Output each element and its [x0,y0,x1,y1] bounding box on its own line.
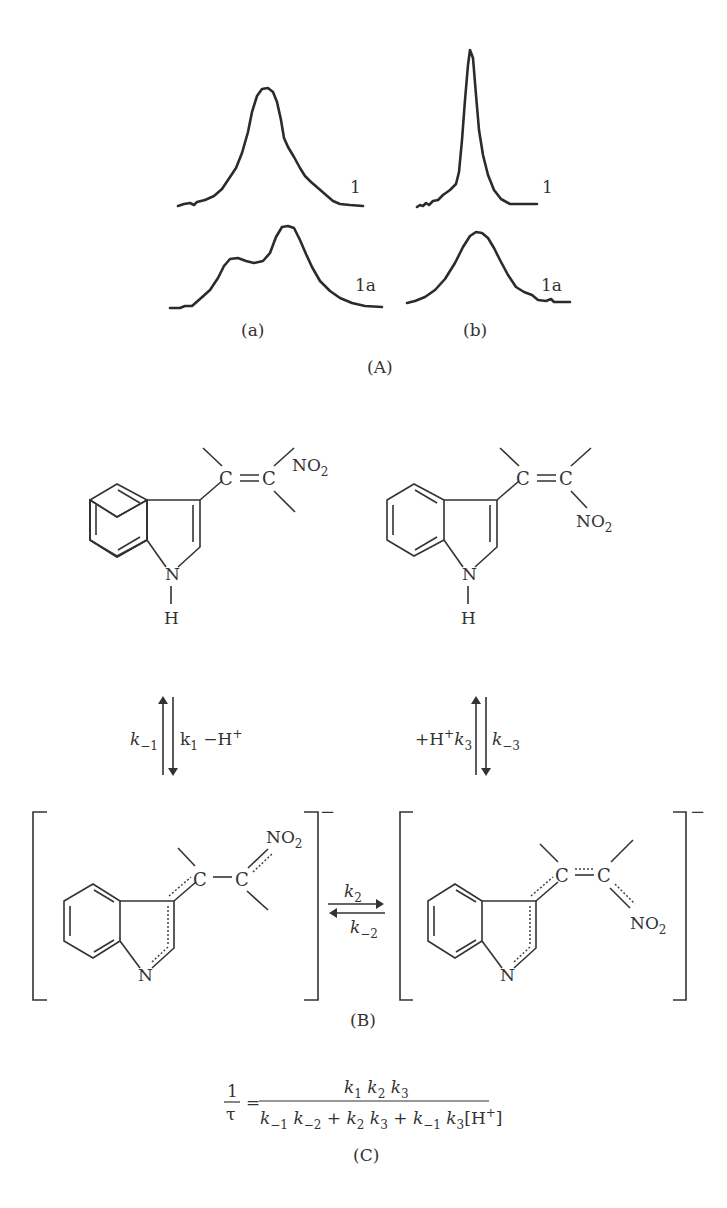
k-minus-3-label: k−3 [492,729,520,753]
bl-charge: − [320,801,335,822]
lhs-numerator: 1 [227,1081,238,1101]
molecule-top-left: N H C C NO2 [90,448,328,628]
tr-n-atom: N [462,564,477,584]
bracket-right-icon [673,812,686,1000]
bl-n-atom: N [138,965,153,985]
tl-no2: NO2 [292,455,328,479]
molecule-top-right: N H C C NO2 [387,448,612,628]
br-c-right: C [597,865,611,886]
tl-h-atom: H [164,608,179,628]
k1-minus-h-label: k1 −H+ [180,727,243,753]
panel-b-label: (B) [350,1010,376,1030]
spectrum-a-1a-label: 1a [355,275,376,295]
tr-h-atom: H [461,608,476,628]
bracket-left-icon [33,812,47,1000]
spectrum-a-1-curve [178,88,363,206]
br-n-atom: N [500,965,515,985]
anion-bottom-right: − N C C NO2 [400,801,705,1000]
tl-n-atom: N [165,564,180,584]
denominator-terms: k−1 k−2 + k2 k3 + k−1 k3[H+] [260,1106,502,1132]
br-c-left: C [555,865,569,886]
spectrum-group-b-label: (b) [463,320,487,340]
spectrum-b-1-curve [417,50,537,207]
panel-a-spectra: 1 1 1a 1a (a) (b) (A) [170,50,570,377]
rate-equation: 1 τ = k1 k2 k3 k−1 k−2 + k2 k3 + k−1 k3[… [224,1077,502,1165]
spectrum-b-1a-label: 1a [541,275,562,295]
br-charge: − [690,801,705,822]
tl-c-left: C [219,468,233,489]
spectrum-group-a-label: (a) [241,320,264,340]
figure-canvas: 1 1 1a 1a (a) (b) (A) N H C C NO2 [0,0,727,1208]
bl-c-left: C [193,869,207,890]
equilibrium-left: k−1 k1 −H+ [130,697,243,775]
bl-no2: NO2 [266,827,302,851]
lhs-denominator: τ [226,1104,235,1124]
numerator-terms: k1 k2 k3 [344,1077,409,1101]
bracket-right-icon [304,812,318,1000]
anion-bottom-left: − N C C NO2 [33,801,335,1000]
k2-label: k2 [344,881,362,905]
panel-a-label: (A) [367,357,393,377]
equilibrium-right: +H+k3 k−3 [415,697,520,775]
bl-c-right: C [235,869,249,890]
h-plus-k3-label: +H+k3 [415,727,472,753]
equals-sign: = [246,1092,260,1112]
spectrum-a-1a-curve [170,226,382,308]
bracket-left-icon [400,812,413,1000]
spectrum-b-1-label: 1 [542,177,553,197]
tl-c-right: C [262,468,276,489]
k-minus-1-label: k−1 [130,729,158,753]
k-minus-2-label: k−2 [350,917,378,941]
spectrum-a-1-label: 1 [350,177,361,197]
equilibrium-middle: k2 k−2 [328,881,385,941]
tr-c-right: C [559,468,573,489]
tr-c-left: C [516,468,530,489]
br-no2: NO2 [630,913,666,937]
panel-c-label: (C) [353,1145,379,1165]
tr-no2: NO2 [576,511,612,535]
